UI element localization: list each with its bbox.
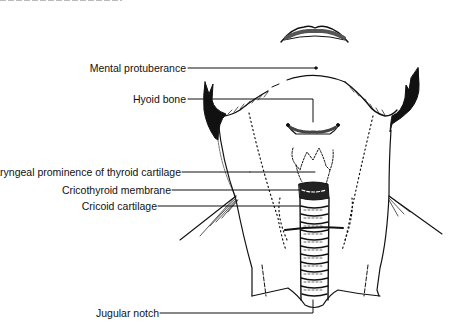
anatomy-figure: Mental protuberance Hyoid bone Laryngeal… — [0, 0, 462, 333]
thyroid-cartilage-drawing — [292, 148, 333, 184]
label-cricothyroid-membrane: Cricothyroid membrane — [62, 184, 171, 196]
left-mandible-shadow — [204, 82, 226, 140]
right-mandible-shadow — [390, 68, 419, 132]
label-laryngeal-prominence: Laryngeal prominence of thyroid cartilag… — [0, 166, 181, 178]
label-jugular-notch: Jugular notch — [96, 307, 159, 319]
label-cricoid-cartilage: Cricoid cartilage — [82, 200, 157, 212]
right-neck-outline — [377, 130, 442, 296]
jaw-outline — [210, 75, 397, 116]
lips-drawing — [281, 26, 348, 42]
left-neck-outline — [180, 120, 252, 296]
label-hyoid-bone: Hyoid bone — [133, 93, 186, 105]
trachea-drawing — [285, 182, 343, 300]
hyoid-bone-drawing — [287, 124, 340, 135]
label-mental-protuberance: Mental protuberance — [90, 62, 186, 74]
